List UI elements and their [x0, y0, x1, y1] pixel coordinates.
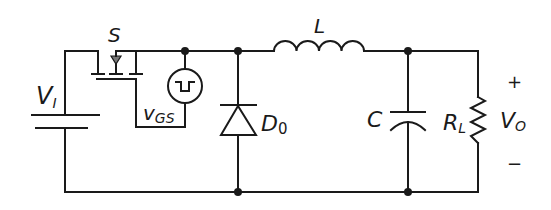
output-voltage-label: VO: [500, 108, 526, 134]
diode: [221, 51, 256, 192]
capacitor: [391, 51, 425, 192]
resistor: [471, 51, 485, 192]
plus-sign: +: [507, 71, 522, 92]
load-label: RL: [443, 110, 466, 136]
gate-voltage-label: vGS: [143, 101, 175, 126]
buck-converter-diagram: S VI vGS D0 L C RL VO + −: [0, 0, 551, 210]
source-voltage-label: VI: [36, 82, 57, 111]
switch-label: S: [108, 23, 121, 47]
diode-label: D0: [261, 111, 288, 138]
dc-source-battery: [32, 51, 99, 192]
inductor-label: L: [314, 14, 325, 38]
circuit-canvas: S VI vGS D0 L C RL VO + −: [0, 0, 551, 210]
minus-sign: −: [507, 153, 522, 174]
capacitor-label: C: [367, 107, 383, 132]
inductor: [274, 41, 364, 51]
